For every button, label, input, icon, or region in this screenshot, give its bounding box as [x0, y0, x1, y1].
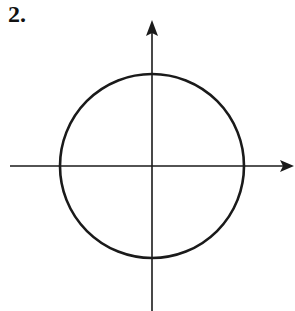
circle-diagram — [0, 0, 295, 311]
